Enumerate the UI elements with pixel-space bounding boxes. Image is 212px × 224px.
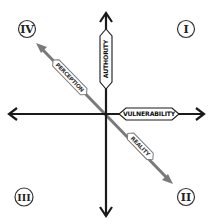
quadrant-iv-label: IV <box>20 23 34 36</box>
authority-label: AUTHORITY <box>100 29 112 89</box>
perception-label-text: PERCEPTION <box>55 62 86 94</box>
reality-label-text: REALITY <box>130 135 152 158</box>
quadrant-ii-marker: II <box>178 189 195 206</box>
authority-label-text: AUTHORITY <box>102 39 109 78</box>
vulnerability-label-text: VULNERABILITY <box>123 110 176 117</box>
perception-label: PERCEPTION <box>50 57 90 98</box>
quadrant-diagram: AUTHORITY VULNERABILITY PERCEPTION REALI… <box>0 0 212 224</box>
vulnerability-label: VULNERABILITY <box>119 108 179 120</box>
reality-label: REALITY <box>125 130 157 162</box>
diagram-canvas: AUTHORITY VULNERABILITY PERCEPTION REALI… <box>0 0 212 224</box>
quadrant-iv-marker: IV <box>19 21 36 38</box>
quadrant-i-label: I <box>183 23 188 36</box>
quadrant-iii-label: III <box>17 192 31 203</box>
quadrant-i-marker: I <box>178 21 195 38</box>
quadrant-iii-marker: III <box>15 188 33 206</box>
quadrant-ii-label: II <box>181 191 191 204</box>
